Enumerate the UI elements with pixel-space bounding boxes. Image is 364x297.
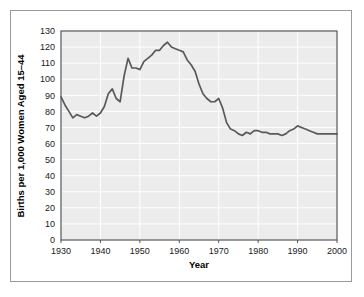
y-axis-tick-labels: 0102030405060708090100110120130 — [40, 26, 55, 245]
y-tick-label: 0 — [50, 235, 55, 245]
y-tick-label: 70 — [45, 123, 55, 133]
y-tick-label: 20 — [45, 203, 55, 213]
y-tick-label: 50 — [45, 155, 55, 165]
x-tick-label: 2000 — [327, 246, 347, 256]
y-tick-label: 80 — [45, 107, 55, 117]
x-axis-tick-labels: 19301940195019601970198019902000 — [51, 240, 347, 256]
x-tick-label: 1980 — [248, 246, 268, 256]
chart-figure: 19301940195019601970198019902000 0102030… — [0, 0, 364, 297]
y-tick-label: 120 — [40, 42, 55, 52]
birth-rate-line-chart: 19301940195019601970198019902000 0102030… — [0, 0, 364, 297]
y-tick-label: 60 — [45, 139, 55, 149]
y-tick-label: 30 — [45, 187, 55, 197]
y-axis-title: Births per 1,000 Women Aged 15–44 — [15, 54, 26, 218]
x-tick-label: 1990 — [288, 246, 308, 256]
x-tick-label: 1950 — [130, 246, 150, 256]
x-tick-label: 1970 — [209, 246, 229, 256]
y-tick-label: 10 — [45, 219, 55, 229]
x-tick-label: 1960 — [169, 246, 189, 256]
plot-area — [61, 31, 337, 240]
x-tick-label: 1930 — [51, 246, 71, 256]
y-tick-label: 90 — [45, 91, 55, 101]
x-axis-title: Year — [189, 259, 209, 270]
y-tick-label: 40 — [45, 171, 55, 181]
y-tick-label: 130 — [40, 26, 55, 36]
y-tick-label: 110 — [41, 58, 55, 68]
y-tick-label: 100 — [40, 74, 55, 84]
x-tick-label: 1940 — [90, 246, 110, 256]
